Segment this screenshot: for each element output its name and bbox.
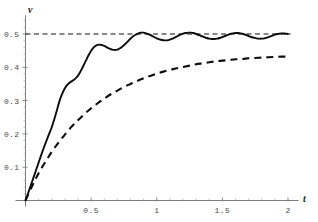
y-tick-label: 0.2 bbox=[4, 130, 20, 139]
y-axis-label: v bbox=[28, 4, 33, 15]
x-tick-label: 2 bbox=[285, 206, 290, 215]
chart-figure: 0.511.52 0.10.20.30.40.5 v t bbox=[0, 0, 318, 222]
y-tick-label: 0.4 bbox=[4, 63, 20, 72]
y-tick-label: 0.3 bbox=[4, 97, 20, 106]
x-tick-label: 1.5 bbox=[215, 206, 231, 215]
chart-background bbox=[0, 0, 318, 222]
x-tick-label: 0.5 bbox=[83, 206, 99, 215]
plot-root: 0.511.52 0.10.20.30.40.5 v t bbox=[0, 0, 318, 222]
y-tick-label: 0.1 bbox=[4, 163, 20, 172]
y-tick-label: 0.5 bbox=[4, 30, 20, 39]
x-tick-label: 1 bbox=[154, 206, 159, 215]
